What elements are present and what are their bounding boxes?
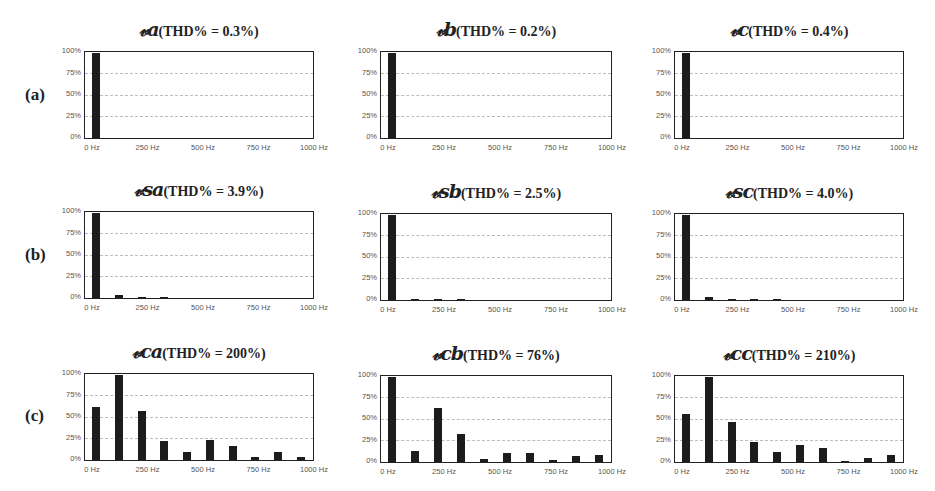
y-tick-label: 25% [641,435,671,444]
gridline [85,276,313,277]
harmonic-bar [115,295,123,298]
y-tick-label: 50% [641,89,671,98]
y-tick-label: 50% [51,89,81,98]
y-tick-label: 25% [51,271,81,280]
harmonic-bar [796,445,804,462]
harmonic-bar [411,451,419,462]
x-tick-label: 0 Hz [674,305,689,314]
chart-title: 𝓋ca(THD% = 200%) [49,340,349,363]
y-tick-label: 0% [641,456,671,465]
y-tick-label: 0% [641,294,671,303]
x-tick-label: 750 Hz [837,143,861,152]
x-tick-label: 250 Hz [432,305,456,314]
gridline [675,95,903,96]
chart-title: 𝓋a(THD% = 0.3%) [49,18,349,41]
chart-title-thd: (THD% = 0.3%) [159,24,259,39]
harmonic-bar [887,455,895,462]
x-tick-label: 250 Hz [432,467,456,476]
harmonic-bar [728,299,736,300]
y-tick-label: 50% [51,411,81,420]
plot-area [380,51,612,139]
x-tick-label: 750 Hz [247,143,271,152]
x-tick-label: 750 Hz [837,467,861,476]
gridline [381,397,611,398]
x-tick-label: 750 Hz [544,143,568,152]
y-tick-label: 0% [51,292,81,301]
y-tick-label: 75% [51,390,81,399]
chart-title-thd: (THD% = 76%) [463,348,560,363]
row-label-b: (b) [25,245,46,265]
x-tick-label: 250 Hz [136,143,160,152]
y-tick-label: 50% [347,89,377,98]
x-tick-label: 0 Hz [84,465,99,474]
harmonic-bar [705,297,713,300]
harmonic-bar [411,299,419,300]
x-tick-label: 250 Hz [726,143,750,152]
harmonic-bar [92,407,100,460]
y-tick-label: 100% [641,46,671,55]
chart-title-symbol: 𝓋sa [134,178,163,200]
plot-area [674,51,904,139]
x-tick-label: 500 Hz [781,467,805,476]
chart-title-symbol: 𝓋cc [723,342,752,364]
chart-title: 𝓋sb(THD% = 2.5%) [345,180,647,203]
harmonic-bar [274,452,282,460]
y-tick-label: 100% [641,208,671,217]
y-tick-label: 25% [347,273,377,282]
x-tick-label: 1000 Hz [300,465,328,474]
chart-title-symbol: 𝓋b [436,18,456,40]
chart-title-symbol: 𝓋sb [431,180,461,202]
harmonic-bar [388,377,396,462]
chart-panel: 𝓋c(THD% = 0.4%)100%75%50%25%0%0 Hz250 Hz… [640,18,935,168]
plot-area [380,213,612,301]
chart-title-symbol: 𝓋c [730,18,749,40]
x-tick-label: 750 Hz [247,465,271,474]
x-tick-label: 1000 Hz [890,143,918,152]
x-tick-label: 0 Hz [380,467,395,476]
y-tick-label: 25% [51,111,81,120]
x-tick-label: 1000 Hz [598,467,626,476]
y-tick-label: 75% [347,68,377,77]
harmonic-bar [595,455,603,462]
chart-title-symbol: 𝓋a [139,18,158,40]
harmonic-bar [434,299,442,300]
x-tick-label: 0 Hz [380,305,395,314]
y-tick-label: 100% [51,206,81,215]
x-tick-label: 1000 Hz [890,467,918,476]
chart-title-thd: (THD% = 210%) [752,348,856,363]
plot-area [674,213,904,301]
harmonic-bar [572,456,580,462]
chart-title: 𝓋cc(THD% = 210%) [639,342,935,365]
gridline [381,95,611,96]
chart-title-thd: (THD% = 3.9%) [163,184,263,199]
gridline [85,233,313,234]
y-tick-label: 25% [641,111,671,120]
harmonic-bar [92,213,100,298]
gridline [675,116,903,117]
y-tick-label: 100% [641,370,671,379]
plot-area [84,373,314,461]
harmonic-bar [773,299,781,300]
harmonic-bar [138,411,146,460]
harmonic-bar [297,457,305,460]
x-tick-label: 250 Hz [432,143,456,152]
harmonic-bar [682,414,690,462]
x-tick-label: 1000 Hz [598,143,626,152]
x-tick-label: 1000 Hz [598,305,626,314]
chart-title-thd: (THD% = 0.2%) [456,24,556,39]
gridline [675,257,903,258]
harmonic-bar [434,408,442,462]
gridline [381,419,611,420]
x-tick-label: 0 Hz [84,143,99,152]
harmonic-bar [457,434,465,462]
chart-panel: 𝓋a(THD% = 0.3%)100%75%50%25%0%0 Hz250 Hz… [50,18,350,168]
x-tick-label: 1000 Hz [300,303,328,312]
x-tick-label: 0 Hz [674,143,689,152]
harmonic-bar [503,453,511,462]
y-tick-label: 0% [51,454,81,463]
harmonic-bar [682,215,690,300]
chart-panel: 𝓋cc(THD% = 210%)100%75%50%25%0%0 Hz250 H… [640,342,935,491]
harmonic-bar [728,422,736,462]
y-tick-label: 75% [641,392,671,401]
gridline [381,73,611,74]
